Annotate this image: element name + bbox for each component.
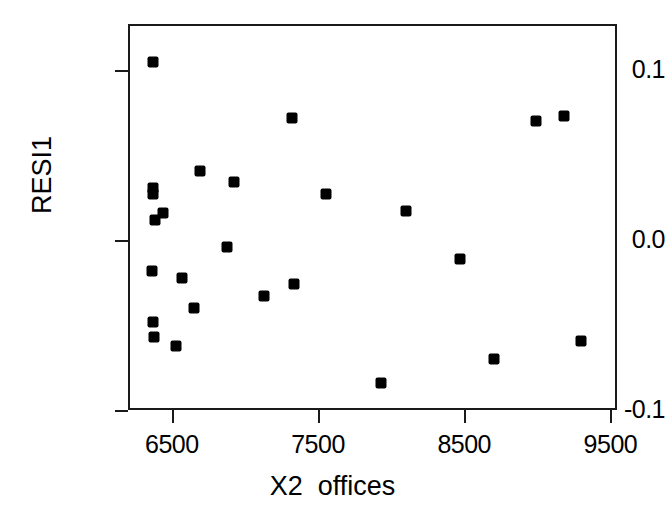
data-point — [401, 206, 412, 217]
x-tick-mark — [318, 410, 320, 423]
data-point — [149, 332, 160, 343]
y-tick-mark — [115, 70, 128, 72]
data-point — [289, 279, 300, 290]
y-tick-mark — [115, 410, 128, 412]
data-point — [258, 291, 269, 302]
data-point — [148, 189, 159, 200]
data-point — [575, 335, 586, 346]
data-point — [455, 253, 466, 264]
data-point — [229, 177, 240, 188]
data-point — [148, 56, 159, 67]
data-point — [321, 189, 332, 200]
x-axis-label: X2 offices — [0, 470, 665, 502]
data-point — [531, 116, 542, 127]
data-point — [170, 340, 181, 351]
y-tick-mark — [115, 240, 128, 242]
data-point — [148, 316, 159, 327]
data-point — [188, 303, 199, 314]
data-point — [176, 272, 187, 283]
data-point — [559, 111, 570, 122]
y-axis-label: RESI1 — [27, 95, 57, 255]
x-tick-label: 6500 — [112, 430, 232, 458]
x-tick-mark — [610, 410, 612, 423]
plot-frame — [128, 24, 617, 410]
x-tick-mark — [464, 410, 466, 423]
data-point — [376, 378, 387, 389]
plot-area — [130, 26, 615, 408]
data-point — [287, 112, 298, 123]
data-point — [488, 354, 499, 365]
data-point — [147, 265, 158, 276]
x-tick-label: 8500 — [404, 430, 524, 458]
data-point — [194, 165, 205, 176]
x-tick-mark — [172, 410, 174, 423]
data-point — [222, 242, 233, 253]
x-tick-label: 7500 — [258, 430, 378, 458]
data-point — [150, 214, 161, 225]
x-tick-label: 9500 — [550, 430, 670, 458]
